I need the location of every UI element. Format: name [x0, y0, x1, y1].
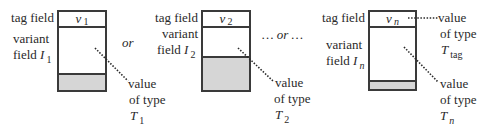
leader-line-n: [404, 47, 438, 82]
leader-line-2: [238, 48, 273, 81]
leader-line-1: [95, 48, 128, 81]
leader-lines: [0, 0, 489, 129]
